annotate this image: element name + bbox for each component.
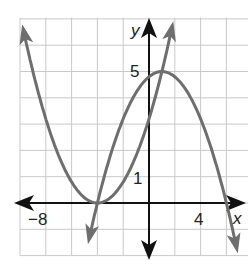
curves <box>20 21 241 253</box>
tick-label-x-4: 4 <box>194 210 203 229</box>
axes <box>14 18 246 260</box>
x-axis-label: x <box>232 209 242 228</box>
graph: y x −8 4 1 5 <box>0 0 248 264</box>
grid <box>20 18 248 256</box>
tick-label-x-neg8: −8 <box>28 210 47 229</box>
tick-label-y-5: 5 <box>130 62 139 81</box>
tick-label-y-1: 1 <box>133 169 142 188</box>
labels: y x −8 4 1 5 <box>28 21 242 229</box>
y-axis-label: y <box>130 21 141 40</box>
